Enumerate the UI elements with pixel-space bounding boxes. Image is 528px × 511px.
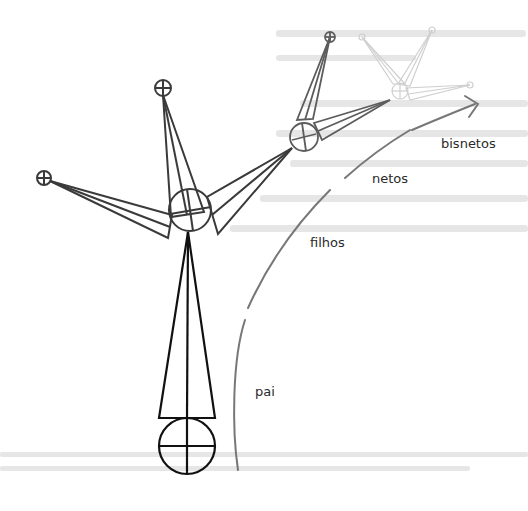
figure-bisnetos: [359, 27, 473, 100]
bleed-through-text: [0, 30, 528, 471]
generation-arc: [234, 96, 478, 470]
label-netos: netos: [372, 171, 408, 186]
label-bisnetos: bisnetos: [441, 136, 496, 151]
label-filhos: filhos: [310, 235, 345, 250]
branch-filhos-3: [207, 148, 292, 234]
figure-filhos: [37, 80, 292, 238]
arc-segment-bisnetos: [412, 104, 475, 130]
arc-segment-pai: [234, 320, 245, 470]
generations-diagram: pai filhos netos bisnetos: [0, 0, 528, 511]
branch-filhos-2: [50, 181, 172, 238]
figure-pai: [159, 232, 215, 474]
label-pai: pai: [255, 384, 275, 399]
branch-netos-1: [297, 37, 330, 120]
